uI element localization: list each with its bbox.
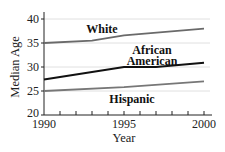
x-ticks bbox=[60, 111, 204, 115]
series-label-american: American bbox=[127, 54, 178, 68]
series-line-african-american bbox=[44, 63, 204, 80]
x-tick-label-1990: 1990 bbox=[32, 117, 56, 131]
line-chart: 40 35 30 25 20 1990 1995 2000 Year Media… bbox=[0, 0, 225, 152]
y-tick-label-40: 40 bbox=[27, 12, 39, 26]
series-line-hispanic bbox=[44, 81, 204, 91]
x-tick-label-2000: 2000 bbox=[192, 117, 216, 131]
y-tick-label-30: 30 bbox=[27, 60, 39, 74]
x-axis-title: Year bbox=[112, 131, 136, 145]
series-label-hispanic: Hispanic bbox=[109, 92, 155, 106]
y-tick-label-35: 35 bbox=[27, 36, 39, 50]
y-tick-label-25: 25 bbox=[27, 84, 39, 98]
series-label-white: White bbox=[86, 22, 118, 36]
y-axis-title: Median Age bbox=[8, 36, 22, 98]
series-line-white bbox=[44, 29, 204, 43]
x-tick-label-1995: 1995 bbox=[112, 117, 136, 131]
